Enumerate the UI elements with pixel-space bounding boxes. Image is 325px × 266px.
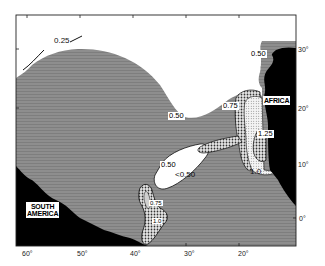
contour-label-050-north: 0.50 bbox=[250, 50, 267, 58]
x-axis-label-40: 40° bbox=[130, 250, 141, 257]
y-axis-label-30: 30° bbox=[298, 46, 309, 53]
africa-label: AFRICA bbox=[263, 96, 290, 105]
contour-label-10-sw: 1.0 bbox=[152, 218, 162, 224]
contour-label-10: 1.0 bbox=[250, 168, 261, 176]
contour-map bbox=[0, 0, 325, 266]
y-axis-label-10: 10° bbox=[298, 161, 309, 168]
south-america-label-line2: AMERICA bbox=[27, 210, 58, 217]
x-axis-label-20: 20° bbox=[238, 250, 249, 257]
contour-label-050-center: 0.50 bbox=[168, 112, 185, 120]
contour-label-lt050: <0.50 bbox=[175, 171, 195, 179]
contour-label-125: 1.25 bbox=[257, 130, 274, 138]
contour-label-075-sw: 0.75 bbox=[149, 200, 163, 206]
y-axis-label-0: 0° bbox=[299, 215, 306, 222]
x-axis-label-60: 60° bbox=[22, 250, 33, 257]
south-america-label-line1: SOUTH bbox=[27, 203, 58, 210]
contour-label-025: 0.25 bbox=[54, 37, 70, 45]
y-axis-label-20: 20° bbox=[298, 105, 309, 112]
x-axis-label-50: 50° bbox=[77, 250, 88, 257]
x-axis-label-30: 30° bbox=[184, 250, 195, 257]
south-america-label: SOUTH AMERICA bbox=[26, 202, 59, 218]
contour-label-075-africa: 0.75 bbox=[222, 102, 239, 110]
contour-label-050-west: 0.50 bbox=[160, 161, 177, 169]
